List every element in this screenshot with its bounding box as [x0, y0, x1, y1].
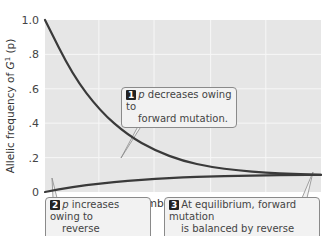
y-tick-label: .6 [29, 83, 40, 96]
annotation-2: 2p increases owing to reverse mutation. [45, 197, 151, 236]
y-axis-label-symbol: G [4, 61, 16, 69]
y-ticks: 0.2.4.6.81.0 [22, 14, 40, 199]
annotation-2-text2: reverse mutation. [50, 223, 100, 236]
annotation-3-text2: is balanced by reverse mutation. [169, 223, 294, 236]
y-tick-label: .4 [29, 117, 40, 130]
annotation-3: 3At equilibrium, forward mutation is bal… [164, 197, 320, 236]
y-axis-label-suffix: (p) [4, 39, 16, 57]
annotation-1: 1p decreases owing to forward mutation. [121, 87, 237, 128]
y-tick-label: 1.0 [22, 14, 40, 27]
annotation-1-number: 1 [126, 90, 136, 100]
annotation-3-number: 3 [169, 200, 179, 210]
y-axis-label: Allelic frequency of G1 (p) [4, 39, 16, 174]
y-axis-label-prefix: Allelic frequency of [4, 69, 16, 173]
y-tick-label: 0 [32, 186, 39, 199]
annotation-1-text2: forward mutation. [126, 113, 228, 124]
y-tick-label: .2 [29, 152, 40, 165]
annotation-2-number: 2 [50, 200, 60, 210]
annotation-3-text: At equilibrium, forward mutation [169, 199, 296, 222]
annotation-2-text: increases owing to [50, 199, 119, 222]
y-tick-label: .8 [29, 48, 40, 61]
